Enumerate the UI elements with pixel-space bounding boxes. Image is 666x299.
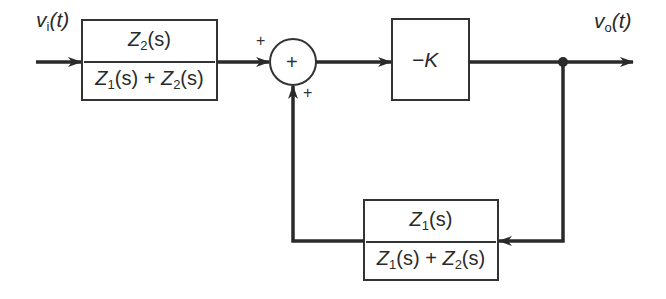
feedback-path-right xyxy=(499,62,563,241)
den-op: + xyxy=(425,247,437,269)
output-sub: o xyxy=(605,20,612,35)
den-b-var: Z xyxy=(161,67,173,89)
feedback-numerator: Z1(s) xyxy=(410,206,453,239)
feedback-denominator: Z1(s) + Z2(s) xyxy=(377,245,485,278)
input-label: vi(t) xyxy=(36,8,69,34)
input-arg: (t) xyxy=(49,8,69,31)
den-a-arg: (s) xyxy=(396,247,419,269)
output-var: v xyxy=(594,9,605,32)
den-b-arg: (s) xyxy=(462,247,485,269)
den-a-var: Z xyxy=(377,247,389,269)
num-var: Z xyxy=(128,28,140,50)
den-b-arg: (s) xyxy=(180,67,203,89)
num-sub: 2 xyxy=(140,38,147,53)
sum-bottom-sign: + xyxy=(303,84,312,102)
den-a-var: Z xyxy=(95,67,107,89)
den-b-sub: 2 xyxy=(455,257,462,272)
output-arg: (t) xyxy=(612,9,632,32)
fraction-bar xyxy=(366,241,496,243)
feedback-transfer-function: Z1(s) Z1(s) + Z2(s) xyxy=(366,206,496,278)
sum-center-sign: + xyxy=(286,51,298,74)
den-a-sub: 1 xyxy=(108,77,115,92)
num-var: Z xyxy=(410,208,422,230)
num-sub: 1 xyxy=(422,218,429,233)
feedback-path-left xyxy=(293,86,364,241)
forward-numerator: Z2(s) xyxy=(128,26,171,59)
den-a-arg: (s) xyxy=(115,67,138,89)
fraction-bar xyxy=(84,61,215,63)
sum-left-sign: + xyxy=(256,32,265,50)
gain-text: −K xyxy=(412,48,438,71)
forward-denominator: Z1(s) + Z2(s) xyxy=(95,65,203,98)
den-b-var: Z xyxy=(442,247,454,269)
forward-transfer-function: Z2(s) Z1(s) + Z2(s) xyxy=(84,26,215,98)
den-op: + xyxy=(144,67,156,89)
input-var: v xyxy=(36,8,47,31)
output-label: vo(t) xyxy=(594,9,632,35)
num-arg: (s) xyxy=(429,208,452,230)
gain-label: −K xyxy=(412,48,438,72)
num-arg: (s) xyxy=(148,28,171,50)
